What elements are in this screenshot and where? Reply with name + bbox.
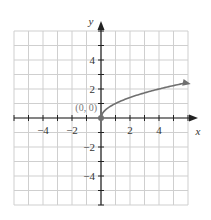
curve-arrow-icon: [182, 79, 191, 86]
y-tick-label: 2: [90, 83, 96, 95]
graph-canvas: −4 −2 2 4 4 2 −2 −4 x y (0, 0): [0, 0, 211, 220]
y-tick-label: −2: [83, 141, 95, 153]
x-axis-arrow-icon: [189, 115, 198, 122]
x-tick-labels: −4 −2 2 4: [37, 124, 162, 136]
x-tick-label: −4: [37, 124, 49, 136]
y-tick-label: 4: [90, 54, 96, 66]
axes: [14, 21, 198, 205]
origin-point: [98, 115, 104, 121]
x-axis-label: x: [195, 125, 201, 137]
y-axis-label: y: [88, 15, 94, 27]
y-axis-arrow-icon: [98, 21, 105, 30]
y-tick-label: −4: [83, 170, 95, 182]
x-tick-label: −2: [66, 124, 78, 136]
x-tick-label: 2: [127, 124, 133, 136]
origin-point-label: (0, 0): [75, 102, 97, 114]
x-tick-label: 4: [156, 124, 162, 136]
